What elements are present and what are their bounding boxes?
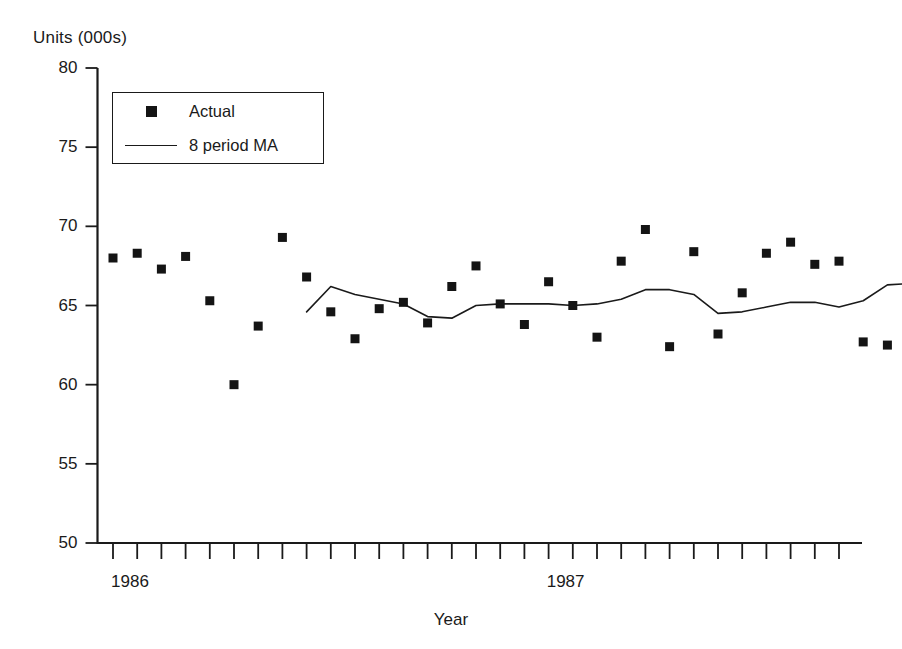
x-tick-label: 1986 bbox=[111, 572, 149, 592]
y-tick-label: 70 bbox=[59, 216, 78, 236]
y-tick-label: 80 bbox=[59, 58, 78, 78]
chart-legend: Actual 8 period MA bbox=[112, 92, 324, 164]
legend-item-actual: Actual bbox=[113, 93, 323, 129]
y-tick-label: 60 bbox=[59, 375, 78, 395]
y-tick-label: 50 bbox=[59, 533, 78, 553]
x-axis-title: Year bbox=[0, 610, 902, 630]
x-tick-label: 1987 bbox=[547, 572, 585, 592]
legend-label-moving-average: 8 period MA bbox=[189, 136, 278, 155]
moving-average-line bbox=[307, 283, 902, 318]
legend-item-moving-average: 8 period MA bbox=[113, 127, 323, 163]
actual-data-markers bbox=[109, 225, 902, 389]
y-tick-label: 75 bbox=[59, 137, 78, 157]
chart-container: Units (000s) 50556065707580 19861987 Yea… bbox=[0, 0, 902, 649]
y-tick-label: 65 bbox=[59, 296, 78, 316]
legend-line-swatch-icon bbox=[113, 145, 189, 146]
legend-label-actual: Actual bbox=[189, 102, 235, 121]
y-tick-label: 55 bbox=[59, 454, 78, 474]
legend-marker-swatch-icon bbox=[113, 106, 189, 117]
